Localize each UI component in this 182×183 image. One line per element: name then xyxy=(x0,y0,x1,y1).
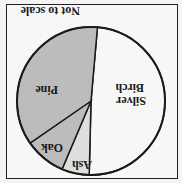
label-silver-birch-line1: Silver xyxy=(115,94,146,108)
not-to-scale-note: Not to scale xyxy=(20,4,80,18)
label-ash: Ash xyxy=(72,158,92,172)
chart-frame: Silver Birch Ash Oak Pine Not to scale xyxy=(0,0,182,183)
label-silver-birch-line2: Birch xyxy=(115,81,144,95)
label-pine: Pine xyxy=(35,83,58,97)
label-oak: Oak xyxy=(41,141,63,155)
pie-chart: Silver Birch Ash Oak Pine Not to scale xyxy=(0,0,182,183)
